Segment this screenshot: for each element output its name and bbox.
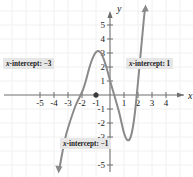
- annotation-text: -intercept: −3: [10, 60, 52, 68]
- annotation-text: -intercept: 1: [133, 60, 171, 68]
- y-tick-label: -2: [98, 118, 106, 128]
- y-axis-label: y: [116, 3, 122, 14]
- annotation-x-intercept-minus-1: x-intercept: −1: [60, 138, 111, 149]
- y-tick-label: -1: [98, 104, 106, 114]
- annotation-x-intercept-minus-3: x-intercept: −3: [3, 58, 54, 69]
- y-tick-label: 4: [101, 34, 106, 44]
- annotation-text: -intercept: −1: [67, 140, 109, 148]
- x-tick-label: -5: [36, 98, 44, 108]
- x-axis-label: x: [187, 90, 193, 101]
- x-tick-label: 3: [150, 98, 155, 108]
- annotation-x-intercept-1: x-intercept: 1: [126, 58, 173, 69]
- x-tick-label: 1: [122, 98, 127, 108]
- y-tick-label: 1: [101, 76, 106, 86]
- graph-figure: -5 -4 -3 -2 -1 1 2 3 4 5 4 3 2 1 -1 -2 -…: [0, 0, 193, 177]
- coordinate-plane: -5 -4 -3 -2 -1 1 2 3 4 5 4 3 2 1 -1 -2 -…: [0, 0, 193, 177]
- x-tick-label: 4: [164, 98, 169, 108]
- curve-down-arrow: [55, 166, 62, 174]
- x-tick-label: -3: [64, 98, 72, 108]
- grid-lines: [0, 0, 193, 177]
- x-intercept-dot: [93, 92, 98, 97]
- x-tick-label: -4: [50, 98, 58, 108]
- y-tick-label: -5: [98, 160, 106, 170]
- y-tick-label: 5: [101, 20, 106, 30]
- y-axis-arrow: [107, 11, 112, 18]
- curve-up-arrow: [142, 5, 149, 13]
